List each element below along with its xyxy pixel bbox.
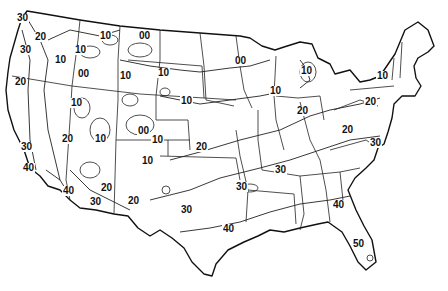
contour-label: 30	[274, 165, 287, 175]
contour-label: 30	[19, 45, 32, 55]
contour-label: 20	[296, 106, 309, 116]
contour-label: 40	[62, 186, 75, 196]
contour-label: 40	[332, 200, 345, 210]
contour-label: 10	[70, 98, 83, 108]
contour-label: 30	[89, 197, 102, 207]
contour-label: 10	[300, 66, 313, 76]
contour-label: 10	[99, 31, 112, 41]
contour-label: 20	[34, 32, 47, 42]
contour-label: 30	[20, 142, 33, 152]
contour-label: 10	[119, 71, 132, 81]
contour-label: 10	[157, 68, 170, 78]
contour-label: 30	[180, 205, 193, 215]
contour-label: 20	[195, 142, 208, 152]
contour-label: 00	[234, 56, 247, 66]
contour-label: 00	[77, 69, 90, 79]
contour-label: 10	[269, 86, 282, 96]
contour-label: 30	[16, 13, 29, 23]
contour-label: 10	[54, 55, 67, 65]
contour-label: 40	[222, 224, 235, 234]
contour-label: 20	[14, 77, 27, 87]
contour-label: 10	[376, 71, 389, 81]
contour-label: 20	[127, 196, 140, 206]
contour-label: 00	[137, 126, 150, 136]
contour-label: 40	[22, 163, 35, 173]
contour-label: 20	[341, 125, 354, 135]
contour-label: 10	[141, 156, 154, 166]
contour-label: 20	[100, 183, 113, 193]
contour-label: 50	[352, 239, 365, 249]
contour-label: 20	[61, 134, 74, 144]
contour-label: 10	[74, 45, 87, 55]
contour-label: 30	[369, 138, 382, 148]
contour-label: 00	[138, 31, 151, 41]
contour-label: 30	[235, 182, 248, 192]
contour-label: 10	[180, 96, 193, 106]
contour-label: 20	[364, 97, 377, 107]
contour-label: 10	[151, 135, 164, 145]
contour-label: 10	[94, 134, 107, 144]
